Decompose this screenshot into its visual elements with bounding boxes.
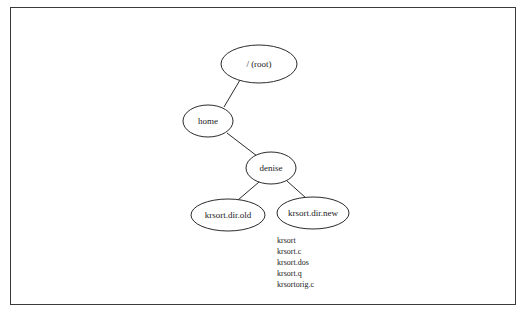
node-label-home: home xyxy=(198,116,218,126)
file-list-item: krsortorig.c xyxy=(277,280,315,289)
file-list-item: krsort.c xyxy=(277,247,302,256)
tree-edge-denise-to-krsort_old xyxy=(238,182,259,200)
file-list-item: krsort xyxy=(277,236,296,245)
node-label-root: / (root) xyxy=(246,59,271,69)
file-list-item: krsort.dos xyxy=(277,258,309,267)
node-label-krsort_new: krsort.dir.new xyxy=(288,208,338,218)
tree-node-krsort_new[interactable]: krsort.dir.new xyxy=(277,197,349,229)
tree-node-home[interactable]: home xyxy=(183,105,233,137)
tree-edge-denise-to-krsort_new xyxy=(287,181,306,198)
tree-node-krsort_old[interactable]: krsort.dir.old xyxy=(191,199,265,231)
tree-edge-home-to-denise xyxy=(227,133,257,156)
file-list: krsortkrsort.ckrsort.doskrsort.qkrsortor… xyxy=(277,236,315,289)
tree-edge-root-to-home xyxy=(224,80,240,107)
node-label-krsort_old: krsort.dir.old xyxy=(205,210,252,220)
node-label-denise: denise xyxy=(260,163,283,173)
filesystem-tree-diagram: / (root)homedenisekrsort.dir.oldkrsort.d… xyxy=(0,0,532,315)
tree-node-root[interactable]: / (root) xyxy=(221,45,297,83)
tree-node-denise[interactable]: denise xyxy=(246,152,296,184)
tree-nodes: / (root)homedenisekrsort.dir.oldkrsort.d… xyxy=(183,45,349,231)
file-list-item: krsort.q xyxy=(277,269,302,278)
